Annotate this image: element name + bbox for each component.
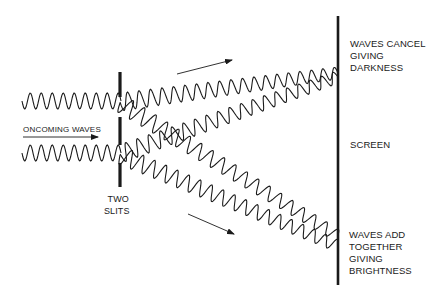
waves-add-label: WAVES ADD TOGETHER GIVING BRIGHTNESS [349,229,412,277]
waves-cancel-label: WAVES CANCEL GIVING DARKNESS [350,38,426,74]
lower-beam-from-bottom-slit [119,150,338,248]
direction-arrow-lower [188,214,234,234]
upper-beam-from-top-slit [120,68,338,111]
waves-cancel-line2: GIVING [350,50,426,62]
incoming-wave-1 [22,93,121,109]
two-slits-label: TWO SLITS [104,193,130,217]
oncoming-waves-label: ONCOMING WAVES [23,124,101,136]
waves-add-line1: WAVES ADD [349,229,412,241]
waves-cancel-line3: DARKNESS [350,62,426,74]
waves-cancel-line1: WAVES CANCEL [350,38,426,50]
waves-add-line4: BRIGHTNESS [349,265,412,277]
diffracted-waves [118,68,339,249]
two-slits-label-line1: TWO [104,193,130,205]
waves-add-line3: GIVING [349,253,412,265]
waves-add-line2: TOGETHER [349,241,412,253]
incoming-wave-2 [22,145,121,161]
lower-beam-from-top-slit [118,101,339,236]
direction-arrow-upper [177,60,232,74]
two-slits-label-line2: SLITS [104,205,130,217]
screen-label: SCREEN [350,139,390,151]
